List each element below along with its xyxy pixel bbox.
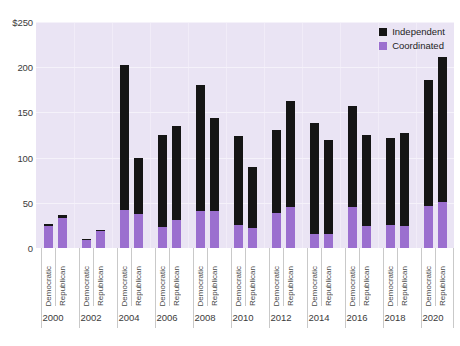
bar-segment-coordinated <box>58 218 67 248</box>
bar-2002-democratic[interactable] <box>82 239 91 248</box>
legend-item-independent[interactable]: Independent <box>379 26 445 37</box>
y-axis-tick-0: 0 <box>28 243 33 254</box>
x-axis-year-2020: 2020 <box>422 312 443 323</box>
x-axis-label-2012-republican: Republican <box>285 266 296 306</box>
bar-2004-democratic[interactable] <box>120 65 129 248</box>
bar-segment-independent <box>424 80 433 207</box>
bar-2016-republican[interactable] <box>362 135 371 248</box>
bar-2012-republican[interactable] <box>286 101 295 248</box>
x-axis-label-2018-republican: Republican <box>399 266 410 306</box>
x-axis-label-2000-republican: Republican <box>57 266 68 306</box>
x-axis-label-2004-republican: Republican <box>133 266 144 306</box>
x-axis-year-2000: 2000 <box>42 312 63 323</box>
bar-2020-democratic[interactable] <box>424 80 433 248</box>
x-axis-label-2008-republican: Republican <box>209 266 220 306</box>
bar-2006-democratic[interactable] <box>158 135 167 248</box>
bar-2006-republican[interactable] <box>172 126 181 248</box>
x-axis-label-2016-republican: Republican <box>361 266 372 306</box>
y-axis-tick-100: 100 <box>17 152 33 163</box>
bar-2000-democratic[interactable] <box>44 224 53 248</box>
y-axis-tick-250: $250 <box>12 17 33 28</box>
bar-segment-coordinated <box>310 234 319 248</box>
bar-2016-democratic[interactable] <box>348 106 357 248</box>
bar-2002-republican[interactable] <box>96 230 105 248</box>
bar-segment-independent <box>196 85 205 211</box>
bar-2020-republican[interactable] <box>438 57 447 248</box>
bar-series-group <box>36 22 454 248</box>
bar-2010-republican[interactable] <box>248 167 257 248</box>
bar-segment-independent <box>324 140 333 234</box>
legend-swatch-icon <box>379 28 387 36</box>
bar-2004-republican[interactable] <box>134 158 143 248</box>
bar-segment-coordinated <box>82 240 91 248</box>
x-axis: DemocraticRepublicanDemocraticRepublican… <box>36 248 454 346</box>
x-axis-separator <box>435 248 436 306</box>
x-axis-label-2008-democratic: Democratic <box>195 266 206 306</box>
x-axis-separator <box>321 248 322 306</box>
x-axis-label-2004-democratic: Democratic <box>119 266 130 306</box>
legend-label: Independent <box>392 26 445 37</box>
bar-2014-republican[interactable] <box>324 140 333 248</box>
bar-segment-independent <box>158 135 167 227</box>
x-axis-label-2002-republican: Republican <box>95 266 106 306</box>
x-axis-label-2020-democratic: Democratic <box>423 266 434 306</box>
y-axis: 050100150200$250 <box>0 0 36 260</box>
bar-segment-coordinated <box>96 231 105 248</box>
bar-2014-democratic[interactable] <box>310 123 319 248</box>
x-axis-label-2012-democratic: Democratic <box>271 266 282 306</box>
bar-segment-independent <box>234 136 243 225</box>
x-axis-label-2016-democratic: Democratic <box>347 266 358 306</box>
bar-segment-coordinated <box>272 213 281 248</box>
x-axis-year-2016: 2016 <box>346 312 367 323</box>
x-axis-label-2010-democratic: Democratic <box>233 266 244 306</box>
bar-2018-republican[interactable] <box>400 133 409 248</box>
bar-segment-independent <box>210 118 219 211</box>
bar-2008-republican[interactable] <box>210 118 219 248</box>
x-axis-label-2014-democratic: Democratic <box>309 266 320 306</box>
x-axis-party-labels: DemocraticRepublicanDemocraticRepublican… <box>36 248 454 306</box>
x-axis-label-2006-democratic: Democratic <box>157 266 168 306</box>
bar-segment-coordinated <box>424 206 433 248</box>
bar-segment-coordinated <box>196 211 205 248</box>
x-axis-label-2002-democratic: Democratic <box>81 266 92 306</box>
x-axis-label-2020-republican: Republican <box>437 266 448 306</box>
bar-segment-coordinated <box>172 220 181 248</box>
x-axis-year-2006: 2006 <box>156 312 177 323</box>
bar-segment-independent <box>248 167 257 228</box>
x-axis-separator <box>55 248 56 306</box>
y-axis-tick-150: 150 <box>17 107 33 118</box>
bar-segment-coordinated <box>120 210 129 248</box>
bar-segment-coordinated <box>44 226 53 248</box>
bar-segment-coordinated <box>400 226 409 248</box>
x-axis-year-2002: 2002 <box>80 312 101 323</box>
x-axis-separator <box>169 248 170 306</box>
bar-segment-independent <box>172 126 181 220</box>
x-axis-label-2018-democratic: Democratic <box>385 266 396 306</box>
x-axis-label-2000-democratic: Democratic <box>43 266 54 306</box>
x-axis-separator <box>245 248 246 306</box>
x-axis-separator <box>283 248 284 306</box>
bar-segment-independent <box>286 101 295 208</box>
bar-2018-democratic[interactable] <box>386 138 395 248</box>
bar-2008-democratic[interactable] <box>196 85 205 248</box>
y-axis-tick-200: 200 <box>17 62 33 73</box>
bar-segment-independent <box>120 65 129 210</box>
x-axis-year-2014: 2014 <box>308 312 329 323</box>
bar-2012-democratic[interactable] <box>272 130 281 248</box>
bar-segment-coordinated <box>248 228 257 248</box>
plot-area: IndependentCoordinated <box>36 22 454 248</box>
x-axis-year-2010: 2010 <box>232 312 253 323</box>
bar-segment-coordinated <box>386 225 395 248</box>
bar-segment-coordinated <box>234 225 243 249</box>
bar-2010-democratic[interactable] <box>234 136 243 248</box>
bar-segment-coordinated <box>324 234 333 248</box>
x-axis-separator <box>207 248 208 306</box>
x-axis-separator <box>397 248 398 306</box>
legend-item-coordinated[interactable]: Coordinated <box>379 40 445 51</box>
bar-segment-independent <box>134 158 143 214</box>
legend-swatch-icon <box>379 42 387 50</box>
x-axis-separator <box>131 248 132 306</box>
bar-segment-independent <box>272 130 281 213</box>
bar-2000-republican[interactable] <box>58 215 67 248</box>
x-axis-separator <box>359 248 360 306</box>
